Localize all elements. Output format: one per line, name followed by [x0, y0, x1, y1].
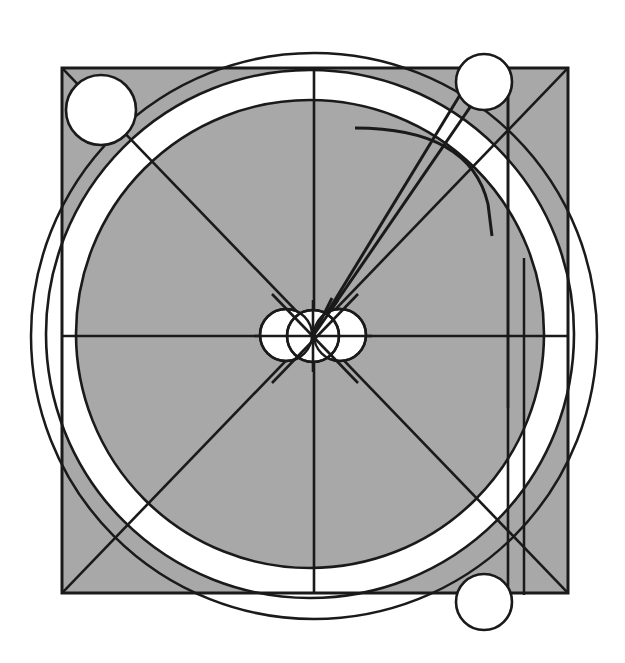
figure-canvas — [0, 0, 625, 663]
corner-circle-bottom-right — [456, 574, 512, 630]
geometric-composition-svg — [0, 0, 625, 663]
corner-circle-top-left — [66, 75, 136, 145]
corner-circle-top-right — [456, 54, 512, 110]
